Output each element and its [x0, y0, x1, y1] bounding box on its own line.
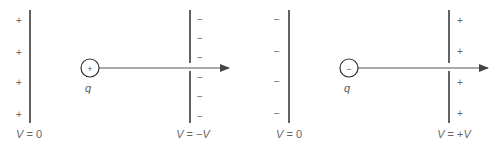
plus-sign: +	[457, 46, 463, 57]
plus-sign: +	[457, 15, 463, 26]
minus-sign: −	[274, 14, 280, 25]
charge-label: q	[85, 82, 92, 94]
right-plate-potential-label: V = +V	[437, 128, 472, 140]
charge-sign: +	[87, 64, 92, 74]
parallel-plates-diagram: + + + + − − − − − − + q V = 0 V = −V −	[0, 0, 499, 150]
minus-sign: −	[274, 76, 280, 87]
minus-sign: −	[197, 33, 203, 44]
plus-sign: +	[16, 109, 22, 120]
minus-sign: −	[197, 72, 203, 83]
minus-sign: −	[274, 46, 280, 57]
minus-sign: −	[274, 108, 280, 119]
panel-positive-charge: + + + + − − − − − − + q V = 0 V = −V	[16, 10, 229, 140]
plus-sign: +	[16, 77, 22, 88]
right-plate-potential-label: V = −V	[176, 128, 211, 140]
charge-label: q	[344, 82, 351, 94]
minus-sign: −	[197, 14, 203, 25]
plus-sign: +	[457, 77, 463, 88]
plus-sign: +	[16, 15, 22, 26]
plus-sign: +	[16, 47, 22, 58]
left-plate-signs: − − − −	[274, 14, 280, 119]
charge-sign: −	[346, 64, 351, 74]
minus-sign: −	[197, 91, 203, 102]
panel-negative-charge: − − − − + + + + − q V = 0 V = +V	[274, 10, 488, 140]
minus-sign: −	[197, 52, 203, 63]
left-plate-signs: + + + +	[16, 15, 22, 120]
right-plate-signs: + + + +	[457, 15, 463, 119]
left-plate-potential-label: V = 0	[276, 128, 302, 140]
left-plate-potential-label: V = 0	[16, 128, 42, 140]
minus-sign: −	[197, 111, 203, 122]
plus-sign: +	[457, 108, 463, 119]
